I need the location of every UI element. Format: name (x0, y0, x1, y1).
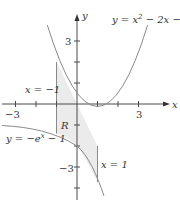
graph-canvas: y x −3 3 3 −3 y = x2 − 2x − 1 y = −ex − … (0, 0, 180, 204)
y-tick-label-3: 3 (65, 36, 71, 47)
x-tick-label-3: 3 (136, 109, 142, 120)
exponential-label: y = −ex − 1 (5, 132, 66, 144)
boundary-left-label: x = −1 (25, 84, 60, 95)
x-tick-label-neg3: −3 (5, 109, 20, 120)
x-axis-label: x (172, 99, 178, 110)
boundary-right-label: x = 1 (101, 159, 128, 170)
y-axis-arrow-icon (75, 14, 80, 21)
y-tick-label-neg3: −3 (59, 163, 74, 174)
x-axis-arrow-icon (163, 102, 170, 107)
parabola-label: y = x2 − 2x − 1 (111, 13, 180, 25)
region-r-label: R (60, 120, 69, 131)
y-axis-label: y (81, 10, 88, 21)
